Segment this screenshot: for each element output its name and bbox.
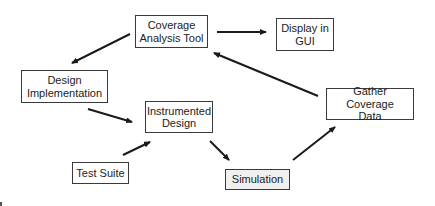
node-coverage-analysis-tool: Coverage Analysis Tool — [135, 15, 208, 48]
corner-mark — [0, 202, 2, 206]
arrow-design_impl-to-instrumented — [88, 109, 132, 122]
coverage-flow-diagram: Coverage Analysis Tool Display in GUI De… — [0, 0, 435, 206]
node-label: Instrumented Design — [147, 105, 211, 130]
node-test-suite: Test Suite — [72, 162, 129, 184]
node-simulation: Simulation — [225, 169, 290, 190]
node-display-in-gui: Display in GUI — [276, 18, 334, 51]
arrow-coverage_tool-to-design_impl — [72, 34, 130, 63]
node-design-implementation: Design Implementation — [21, 70, 108, 103]
arrow-gather-to-coverage_tool — [214, 53, 318, 96]
node-label: Gather Coverage Data — [330, 85, 410, 123]
node-label: Display in GUI — [281, 22, 329, 47]
arrow-test_suite-to-instrumented — [123, 142, 150, 155]
arrow-simulation-to-gather — [293, 127, 335, 160]
arrow-instrumented-to-simulation — [210, 141, 229, 160]
node-gather-coverage-data: Gather Coverage Data — [326, 88, 414, 120]
node-label: Simulation — [232, 173, 283, 186]
node-label: Coverage Analysis Tool — [140, 19, 204, 44]
node-label: Test Suite — [76, 167, 124, 180]
node-instrumented-design: Instrumented Design — [145, 101, 213, 133]
node-label: Design Implementation — [27, 74, 102, 99]
